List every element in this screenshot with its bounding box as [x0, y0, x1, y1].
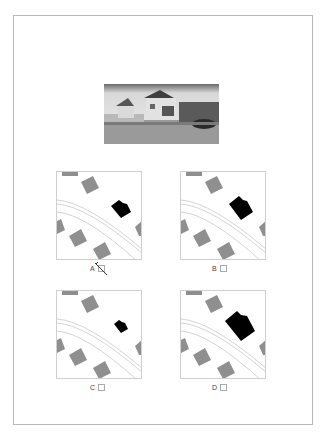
- option-checkbox[interactable]: [220, 384, 227, 391]
- street-photo: [104, 84, 219, 144]
- option-label: B: [212, 265, 217, 272]
- map-option-b[interactable]: [180, 171, 266, 260]
- option-b[interactable]: B: [212, 265, 227, 272]
- option-d[interactable]: D: [212, 384, 227, 391]
- option-label: D: [212, 384, 217, 391]
- map-option-a[interactable]: [56, 171, 142, 260]
- map-option-c[interactable]: [56, 290, 142, 379]
- option-c[interactable]: C: [90, 384, 105, 391]
- option-a[interactable]: A: [90, 265, 105, 272]
- option-label: C: [90, 384, 95, 391]
- map-option-d[interactable]: [180, 290, 266, 379]
- option-checkbox[interactable]: [98, 265, 105, 272]
- check-mark-icon: [93, 261, 109, 277]
- option-checkbox[interactable]: [98, 384, 105, 391]
- option-checkbox[interactable]: [220, 265, 227, 272]
